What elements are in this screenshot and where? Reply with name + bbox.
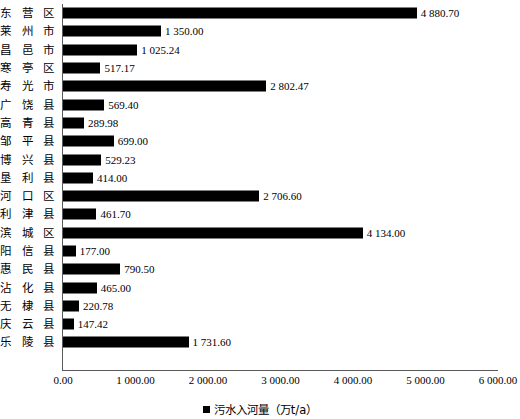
bar	[63, 8, 417, 19]
bar	[63, 337, 189, 348]
category-label: 阳信县	[0, 245, 57, 257]
bar	[63, 81, 266, 92]
bar-value-label: 461.70	[100, 208, 130, 220]
bar	[63, 264, 120, 275]
bar-value-label: 4 880.70	[421, 7, 460, 19]
category-label: 河口区	[0, 190, 57, 202]
bar-value-label: 289.98	[88, 117, 118, 129]
category-label: 沾化县	[0, 282, 57, 294]
bar-value-label: 414.00	[97, 172, 127, 184]
bar-value-label: 529.23	[105, 154, 135, 166]
bar	[63, 191, 259, 202]
bar-row: 垦利县414.00	[0, 169, 520, 187]
category-label: 东营区	[0, 7, 57, 19]
bar	[63, 26, 161, 37]
bar-row: 博兴县529.23	[0, 150, 520, 168]
category-label: 昌邑市	[0, 44, 57, 56]
bar-value-label: 1 025.24	[141, 44, 180, 56]
bar-value-label: 2 706.60	[263, 190, 302, 202]
category-label: 广饶县	[0, 99, 57, 111]
x-axis-tick-label: 4 000.00	[334, 374, 373, 386]
bar-value-label: 2 802.47	[270, 80, 309, 92]
bar-row: 昌邑市1 025.24	[0, 41, 520, 59]
x-axis-line	[62, 370, 498, 371]
chart-legend: 污水入河量（万t/a）	[0, 399, 520, 419]
legend-label: 污水入河量（万t/a）	[214, 401, 317, 417]
bar-value-label: 1 350.00	[165, 25, 204, 37]
bar-row: 寒亭区517.17	[0, 59, 520, 77]
bar	[63, 154, 101, 165]
bar-value-label: 465.00	[101, 282, 131, 294]
bar-row: 莱州市1 350.00	[0, 22, 520, 40]
bar	[63, 246, 76, 257]
bar-value-label: 177.00	[80, 245, 110, 257]
bar-row: 广饶县569.40	[0, 95, 520, 113]
bar-value-label: 1 731.60	[193, 336, 232, 348]
category-label: 乐陵县	[0, 336, 57, 348]
plot-area: 东营区4 880.70莱州市1 350.00昌邑市1 025.24寒亭区517.…	[0, 4, 520, 370]
bar-value-label: 147.42	[78, 318, 108, 330]
category-label: 无棣县	[0, 300, 57, 312]
bar	[63, 44, 137, 55]
bar-value-label: 4 134.00	[367, 227, 406, 239]
bar	[63, 319, 74, 330]
category-label: 滨城区	[0, 227, 57, 239]
bar	[63, 172, 93, 183]
category-label: 庆云县	[0, 318, 57, 330]
bar	[63, 117, 84, 128]
category-label: 莱州市	[0, 25, 57, 37]
bar-row: 利津县461.70	[0, 205, 520, 223]
bar-row: 寿光市2 802.47	[0, 77, 520, 95]
bar	[63, 99, 104, 110]
x-axis-tick-label: 1 000.00	[116, 374, 155, 386]
x-axis-tick-label: 5 000.00	[406, 374, 445, 386]
category-label: 博兴县	[0, 154, 57, 166]
bar-row: 庆云县147.42	[0, 315, 520, 333]
bar	[63, 63, 100, 74]
bar-row: 阳信县177.00	[0, 242, 520, 260]
bar	[63, 300, 79, 311]
bar-value-label: 699.00	[118, 135, 148, 147]
bar	[63, 136, 114, 147]
bar-row: 无棣县220.78	[0, 297, 520, 315]
x-axis-tick-label: 6 000.00	[479, 374, 518, 386]
bar-row: 东营区4 880.70	[0, 4, 520, 22]
x-axis-tick-labels: 0.001 000.002 000.003 000.004 000.005 00…	[0, 374, 520, 390]
bar-row: 惠民县790.50	[0, 260, 520, 278]
category-label: 寿光市	[0, 80, 57, 92]
bar	[63, 227, 363, 238]
bar	[63, 282, 97, 293]
bar-row: 河口区2 706.60	[0, 187, 520, 205]
category-label: 垦利县	[0, 172, 57, 184]
bar-row: 乐陵县1 731.60	[0, 333, 520, 351]
bar-row: 沾化县465.00	[0, 278, 520, 296]
legend-color-swatch	[203, 406, 210, 413]
bar-chart: 东营区4 880.70莱州市1 350.00昌邑市1 025.24寒亭区517.…	[0, 0, 520, 419]
bar-value-label: 220.78	[83, 300, 113, 312]
category-label: 惠民县	[0, 263, 57, 275]
category-label: 高青县	[0, 117, 57, 129]
y-axis-line	[62, 4, 63, 370]
x-axis-tick-label: 3 000.00	[261, 374, 300, 386]
category-label: 利津县	[0, 208, 57, 220]
x-axis-tick-label: 0.00	[53, 374, 72, 386]
bar-value-label: 569.40	[108, 99, 138, 111]
bar-row: 高青县289.98	[0, 114, 520, 132]
bar-value-label: 517.17	[104, 62, 134, 74]
bar-value-label: 790.50	[124, 263, 154, 275]
x-axis-tick-label: 2 000.00	[189, 374, 228, 386]
bar-row: 滨城区4 134.00	[0, 224, 520, 242]
category-label: 寒亭区	[0, 62, 57, 74]
bar-row: 邹平县699.00	[0, 132, 520, 150]
bar	[63, 209, 96, 220]
category-label: 邹平县	[0, 135, 57, 147]
